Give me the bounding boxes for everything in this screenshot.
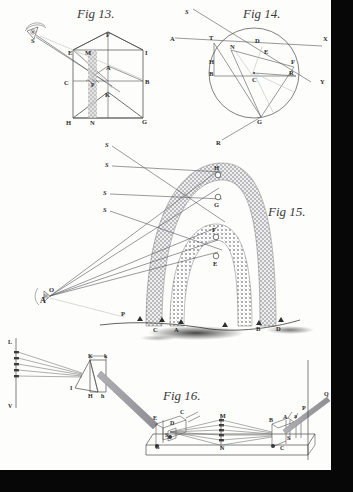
label-H: H — [88, 393, 93, 399]
label-P: P — [302, 405, 306, 411]
label-R: R — [216, 139, 221, 146]
label-S: S — [105, 141, 109, 148]
scan-border-bottom — [0, 470, 353, 492]
label-F: F — [291, 58, 295, 65]
plate-illustration: Fig 13. S F E M I A C B P K H N G — [0, 0, 331, 470]
label-P: P — [121, 310, 125, 317]
label-F: F — [212, 226, 216, 233]
label-D: D — [170, 420, 175, 426]
fig15-group: Fig 15. S S S S H G F E O A P C A B D — [35, 141, 314, 341]
label-L: L — [8, 339, 12, 345]
fig15-arc-points — [213, 172, 221, 259]
fig16-exit-beam — [283, 397, 330, 434]
label-H: H — [214, 164, 219, 171]
label-G: G — [142, 118, 147, 125]
label-T: T — [209, 34, 214, 41]
label-A: A — [283, 414, 288, 420]
label-E: E — [213, 260, 217, 267]
label-C: C — [64, 79, 69, 86]
label-D: D — [276, 325, 281, 332]
label-a: a — [294, 413, 297, 419]
label-k: k — [104, 353, 108, 359]
label-G: G — [214, 201, 219, 208]
label-A: A — [174, 326, 179, 333]
label-C: C — [280, 445, 284, 451]
label-I: I — [145, 49, 148, 56]
label-D: D — [255, 37, 260, 44]
label-R: R — [289, 69, 294, 76]
label-S: S — [103, 189, 107, 196]
fig13-caption: Fig 13. — [76, 6, 115, 21]
label-B: B — [269, 417, 273, 423]
fig14-labels: S A T D X N E H F B C R Y G R — [170, 8, 328, 146]
label-H: H — [66, 119, 71, 126]
label-F: F — [106, 31, 110, 38]
label-B: B — [256, 325, 261, 332]
label-E: E — [68, 49, 72, 56]
fig16-spectrum-rays-right — [222, 420, 272, 445]
label-G: G — [257, 118, 262, 125]
label-S: S — [105, 161, 109, 168]
label-K: K — [88, 353, 93, 359]
fig13-diagram — [36, 32, 143, 118]
label-B: B — [209, 70, 214, 77]
fig16-caption: Fig 16. — [162, 388, 201, 403]
fig15-outer-arc — [146, 163, 276, 326]
label-N: N — [220, 445, 225, 451]
label-O: O — [49, 286, 54, 293]
label-S: S — [103, 206, 107, 213]
fig14-group: Fig 14. S A T D X N E H F B C R Y G R — [170, 6, 328, 146]
fig14-caption: Fig 14. — [242, 6, 281, 21]
label-E: E — [264, 48, 268, 55]
fig16-spectrum-rays-left — [170, 420, 220, 445]
fig16-main-beam — [97, 371, 158, 429]
label-A: A — [106, 64, 111, 71]
label-V: V — [8, 403, 13, 409]
label-A: A — [170, 35, 175, 42]
label-A: A — [40, 296, 46, 305]
label-C: C — [180, 409, 184, 415]
label-N: N — [90, 119, 95, 126]
label-E: E — [153, 415, 157, 421]
fig15-inner-arc — [170, 224, 252, 326]
label-M: M — [220, 413, 226, 419]
fig15-caption: Fig 15. — [267, 204, 306, 219]
fig13-group: Fig 13. S F E M I A C B P K H N G — [25, 6, 150, 126]
label-I: I — [70, 385, 73, 391]
fig16-group: Fig 16. L V K k I H h E D C S G M N B A … — [8, 338, 330, 460]
label-H: H — [209, 58, 214, 65]
fig16-left-rays — [18, 352, 82, 377]
label-K: K — [105, 91, 110, 98]
label-S: S — [185, 8, 189, 15]
fig13-eye-icon — [25, 23, 46, 39]
label-Q: Q — [324, 391, 329, 397]
label-S: S — [31, 37, 35, 44]
label-C: C — [252, 76, 257, 83]
label-M: M — [85, 49, 91, 56]
fig15-ground — [100, 316, 314, 341]
label-C: C — [153, 326, 158, 333]
scan-border-right — [331, 0, 353, 492]
label-S: S — [287, 435, 291, 441]
label-X: X — [323, 35, 328, 42]
label-N: N — [230, 43, 235, 50]
engraving-plate: Fig 13. S F E M I A C B P K H N G — [0, 0, 331, 470]
label-Y: Y — [320, 78, 325, 85]
label-B: B — [145, 78, 150, 85]
label-h: h — [101, 393, 105, 399]
label-G: G — [155, 444, 160, 450]
